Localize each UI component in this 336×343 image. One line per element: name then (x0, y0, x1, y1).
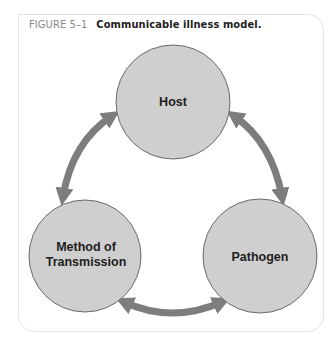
node-method-of-transmission: Method of Transmission (29, 200, 141, 312)
node-pathogen-label: Pathogen (232, 250, 289, 264)
arrow-method-host (63, 116, 112, 197)
node-pathogen: Pathogen (203, 199, 317, 313)
node-host-label: Host (159, 95, 188, 109)
node-host: Host (116, 45, 230, 159)
communicable-illness-diagram: Host Pathogen Method of Transmission (0, 0, 336, 343)
arrow-host-pathogen (234, 116, 282, 197)
node-method-label-line1: Method of (56, 240, 117, 254)
arrow-method-pathogen (124, 302, 222, 313)
node-method-label-line2: Transmission (46, 255, 127, 269)
